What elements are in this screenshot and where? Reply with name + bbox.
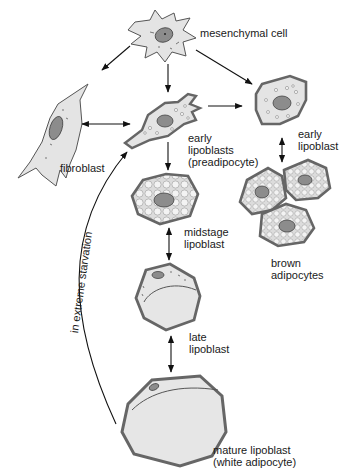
label-mesenchymal-cell: mesenchymal cell [200,27,287,39]
mesenchymal-cell [128,10,196,62]
label-early-lipoblasts: early lipoblasts (preadipocyte) [188,132,258,168]
arrow-mesenchymal-to-early-lipoblast [196,50,252,84]
early-lipoblast-cell [256,76,306,124]
label-brown-adipocytes: brown adipocytes [271,257,324,281]
differentiation-diagram [0,0,354,472]
label-late-lipoblast: late lipoblast [189,331,229,355]
late-lipoblast-cell [136,264,200,330]
arrow-mesenchymal-to-fibroblast [102,46,130,70]
label-early-lipoblast: early lipoblast [298,128,338,152]
brown-adipocytes-cluster [240,160,330,246]
label-midstage-lipoblast: midstage lipoblast [184,226,229,250]
label-fibroblast: fibroblast [60,162,105,174]
label-mature-lipoblast: mature lipoblast (white adipocyte) [213,444,296,468]
mature-lipoblast-cell [122,376,226,466]
midstage-lipoblast-cell [132,174,198,224]
